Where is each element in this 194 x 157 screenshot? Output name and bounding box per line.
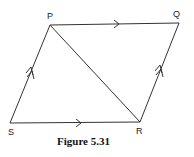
diagonal-pr: [50, 25, 140, 122]
arrow-icon-sr: [76, 119, 81, 127]
vertex-label-q: Q: [173, 9, 180, 19]
vertex-label-s: S: [8, 127, 14, 137]
edge-pq: [50, 23, 179, 25]
vertex-label-p: P: [47, 11, 53, 21]
edge-sr: [10, 122, 140, 123]
figure-caption: Figure 5.31: [57, 135, 110, 147]
parallelogram-diagram: P Q S R Figure 5.31: [0, 0, 194, 157]
double-arrow-icon-sp: [26, 67, 34, 79]
vertex-label-r: R: [136, 126, 143, 136]
edge-rq: [140, 23, 179, 122]
